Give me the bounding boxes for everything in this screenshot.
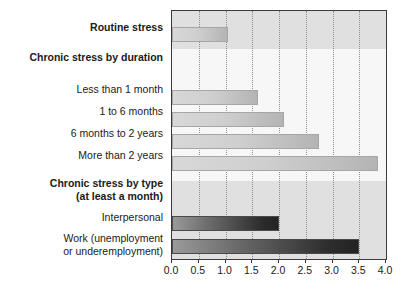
- x-axis: 0.0 0.5 1.0 1.5 2.0 2.5 3.0 3.5 4.0: [171, 259, 385, 283]
- bar-work: [172, 239, 359, 254]
- group-heading-chronic-stress-by-type: Chronic stress by type (at least a month…: [50, 177, 163, 202]
- x-tick-label-4: 2.0: [271, 264, 286, 276]
- x-tick-label-8: 4.0: [378, 264, 393, 276]
- x-tick-mark-3: [251, 259, 252, 263]
- x-tick-mark-2: [225, 259, 226, 263]
- x-tick-mark-8: [385, 259, 386, 263]
- x-tick-label-7: 3.5: [351, 264, 366, 276]
- x-tick-label-0: 0.0: [164, 264, 179, 276]
- bar-6-months-to-2-years: [172, 134, 319, 149]
- category-label-work: Work (unemployment or underemployment): [63, 232, 163, 257]
- bar-routine-stress: [172, 27, 228, 42]
- x-tick-mark-7: [358, 259, 359, 263]
- x-tick-mark-6: [332, 259, 333, 263]
- gridline-3-0: [333, 11, 334, 259]
- x-tick-label-1: 0.5: [190, 264, 205, 276]
- category-label-less-than-1-month: Less than 1 month: [77, 83, 163, 96]
- group-heading-chronic-stress-by-duration: Chronic stress by duration: [29, 51, 163, 64]
- x-tick-mark-0: [171, 259, 172, 263]
- gridline-3-5: [359, 11, 360, 259]
- bar-chart-figure: Routine stress Chronic stress by duratio…: [0, 0, 413, 286]
- x-tick-label-6: 3.0: [324, 264, 339, 276]
- category-label-6-months-to-2-years: 6 months to 2 years: [71, 127, 163, 140]
- category-label-1-to-6-months: 1 to 6 months: [99, 105, 163, 118]
- category-label-interpersonal: Interpersonal: [102, 211, 163, 224]
- x-tick-mark-5: [305, 259, 306, 263]
- x-tick-mark-1: [198, 259, 199, 263]
- bar-more-than-2-years: [172, 156, 378, 171]
- x-tick-label-5: 2.5: [297, 264, 312, 276]
- category-label-more-than-2-years: More than 2 years: [78, 149, 163, 162]
- x-tick-label-3: 1.5: [244, 264, 259, 276]
- x-tick-label-2: 1.0: [217, 264, 232, 276]
- category-label-routine-stress: Routine stress: [90, 21, 163, 34]
- bar-1-to-6-months: [172, 112, 284, 127]
- bar-interpersonal: [172, 216, 279, 231]
- category-label-column: Routine stress Chronic stress by duratio…: [0, 0, 168, 286]
- plot-area: [171, 10, 387, 260]
- x-tick-mark-4: [278, 259, 279, 263]
- bar-less-than-1-month: [172, 90, 258, 105]
